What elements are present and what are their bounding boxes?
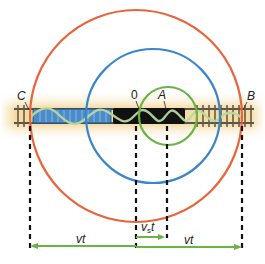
- doppler-diagram: C 0 A B vt vt vst: [0, 0, 265, 264]
- dashed-guides: [30, 126, 242, 250]
- label-vt-left: vt: [76, 233, 85, 245]
- label-point-origin: 0: [131, 89, 138, 101]
- label-vt-right: vt: [184, 234, 193, 246]
- label-point-a: A: [158, 89, 166, 101]
- distance-arrows: [30, 234, 242, 250]
- label-point-b: B: [247, 90, 255, 102]
- arrowhead-right: [234, 244, 242, 250]
- arrowhead-left: [30, 243, 38, 249]
- arrowhead-vst: [158, 234, 165, 240]
- diagram-canvas: [0, 0, 265, 264]
- label-vs-t: vst: [141, 221, 154, 235]
- label-vs-tail: t: [151, 220, 154, 234]
- label-point-c: C: [17, 90, 26, 102]
- train: [33, 108, 185, 124]
